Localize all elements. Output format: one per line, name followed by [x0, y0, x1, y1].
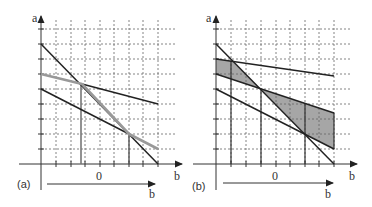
lower-arrow-label-a: b — [149, 187, 155, 201]
figure-canvas: a b 0 b (a) — [0, 0, 372, 207]
middle-line-b — [216, 74, 334, 113]
x-axis-label-a: b — [174, 169, 180, 183]
upper-line-a — [82, 84, 158, 104]
y-axis-label-a: a — [32, 11, 38, 25]
x-axis-label-b: b — [349, 169, 355, 183]
grid-a — [41, 20, 175, 164]
panel-label-a: (a) — [17, 178, 30, 190]
panel-b: a b 0 b (b) — [192, 11, 357, 201]
zero-label-a: 0 — [96, 169, 102, 183]
zero-label-b: 0 — [272, 169, 278, 183]
lower-line-a — [41, 89, 129, 134]
lower-arrow-label-b: b — [325, 187, 331, 201]
shaded-region-b-1 — [216, 59, 261, 89]
panel-a: a b 0 b (a) — [17, 11, 182, 201]
panel-label-b: (b) — [192, 180, 205, 192]
envelope-line-a — [41, 74, 158, 149]
y-axis-label-b: a — [206, 11, 212, 25]
